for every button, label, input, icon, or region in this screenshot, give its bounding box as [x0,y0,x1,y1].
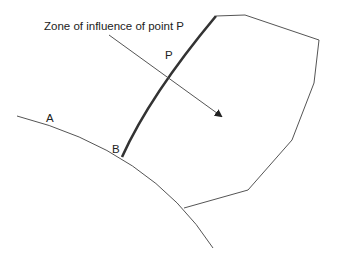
point-b-label: B [112,143,120,155]
caption-label: Zone of influence of point P [44,20,184,32]
zone-of-influence-diagram: Zone of influence of point P A B P [0,0,337,258]
point-p-label: P [165,49,173,61]
pointer-arrow [109,35,221,116]
point-a-label: A [46,112,54,124]
zone-polygon [184,15,319,208]
boundary-arc [17,116,213,248]
influence-curve-bp [122,16,216,157]
